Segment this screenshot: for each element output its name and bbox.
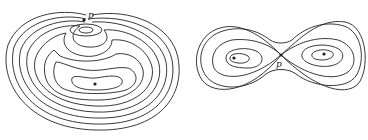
- extremum-point-left: [232, 56, 235, 59]
- contour-diagrams: p p: [0, 0, 368, 140]
- saddle-point-left: [82, 18, 85, 21]
- left-contour-map: [6, 12, 179, 130]
- saddle-label-right: p: [276, 59, 282, 69]
- saddle-label-left: p: [88, 10, 94, 20]
- right-contour-map: [196, 21, 365, 89]
- extremum-point-right: [322, 52, 325, 55]
- saddle-point-right: [279, 53, 282, 56]
- minimum-point-left: [93, 82, 96, 85]
